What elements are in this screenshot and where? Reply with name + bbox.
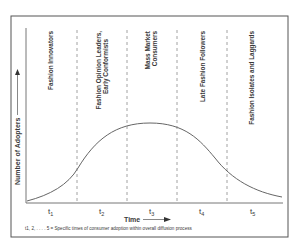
x-axis-arrow-icon [164, 217, 171, 222]
fashion-adoption-diffusion-diagram: Number of Adopters Fashion Innovators Fa… [0, 0, 297, 249]
y-axis-arrow-icon [15, 69, 20, 75]
tick-label-t5: t5 [250, 207, 255, 217]
footnote: t1, 2, . . . . 5 = Specific times of con… [25, 226, 192, 231]
tick-label-t1: t1 [48, 207, 53, 217]
segment-label-t5: Fashion Isolates and Laggards [248, 31, 256, 125]
tick-label-t3: t3 [149, 207, 154, 217]
segment-label-t2: Fashion Opinion Leaders, Early Conformis… [95, 31, 110, 110]
svg-text:Consumers: Consumers [151, 31, 158, 67]
svg-text:Early Conformists: Early Conformists [102, 39, 110, 94]
adoption-curve [27, 123, 282, 201]
y-axis-label: Number of Adopters [14, 117, 22, 185]
svg-text:Fashion Innovators: Fashion Innovators [47, 31, 54, 90]
x-axis-label: Time [124, 216, 140, 223]
svg-text:Late Fashion Followers: Late Fashion Followers [199, 31, 206, 102]
y-axis-title: Number of Adopters [14, 69, 22, 185]
tick-label-t4: t4 [199, 207, 204, 217]
svg-text:Fashion Isolates and Laggards: Fashion Isolates and Laggards [248, 31, 256, 125]
x-axis-title: Time [124, 216, 171, 223]
segment-label-t1: Fashion Innovators [47, 31, 54, 90]
tick-label-t2: t2 [99, 207, 104, 217]
segment-label-t4: Late Fashion Followers [199, 31, 206, 102]
segment-label-t3: Mass Market Consumers [144, 30, 158, 69]
